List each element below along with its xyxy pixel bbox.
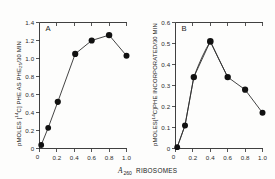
panel-b-letter: B bbox=[182, 24, 187, 33]
panel-b-xtick-4: 0.8 bbox=[241, 154, 250, 161]
panel-b-data-points bbox=[174, 38, 265, 150]
panel-a-ytick-2: 0.4 bbox=[25, 109, 34, 116]
panel-b: 0 0.1 0.2 0.3 0.4 0.5 0.6 1.4 bbox=[151, 19, 268, 161]
panel-b-y-axis-title: pMOLES[14C]PHE INCORPORATED/30 MIN bbox=[151, 23, 158, 146]
panel-b-xtick-2: 0.4 bbox=[206, 154, 215, 161]
panel-b-y-ticks bbox=[172, 23, 175, 149]
data-point bbox=[89, 37, 95, 43]
panel-a-top-ticks bbox=[57, 23, 127, 26]
panel-a: 0 0.2 0.4 0.6 0.8 1.0 1.2 1.4 bbox=[14, 19, 131, 161]
data-point bbox=[124, 53, 130, 59]
panel-b-ytick-0: 0 bbox=[167, 145, 171, 152]
panel-b-x-ticks bbox=[176, 149, 263, 153]
panel-a-xtick-4: 0.8 bbox=[105, 154, 114, 161]
panel-b-data-curve-path bbox=[177, 41, 262, 147]
panel-a-ytick-0: 0 bbox=[31, 145, 35, 152]
panel-a-data-curve bbox=[41, 35, 126, 145]
xaxis-title-word: RIBOSOMES bbox=[136, 167, 177, 174]
panel-b-top-ticks bbox=[193, 23, 263, 26]
data-point bbox=[45, 125, 51, 131]
panel-b-ytick-4: 0.4 bbox=[161, 61, 170, 68]
panel-a-xtick-1: 0.2 bbox=[52, 154, 61, 161]
svg-text:pMOLES [14C] PHE AS PHE25/30 M: pMOLES [14C] PHE AS PHE25/30 MIN bbox=[14, 41, 23, 146]
panel-b-xtick-0: 0 bbox=[172, 153, 176, 160]
figure-canvas: 0 0.2 0.4 0.6 0.8 1.0 1.2 1.4 bbox=[0, 0, 275, 179]
data-point bbox=[55, 99, 61, 105]
data-point bbox=[242, 87, 248, 93]
xaxis-title-subscript: 260 bbox=[124, 170, 133, 176]
panel-a-ytick-7: 1.4 bbox=[25, 19, 34, 26]
panel-a-xtick-3: 0.6 bbox=[87, 154, 96, 161]
panel-a-ytick-4: 0.8 bbox=[25, 73, 34, 80]
xaxis-title-symbol: A bbox=[117, 166, 123, 175]
data-point bbox=[225, 74, 231, 80]
panel-a-ytick-6: 1.2 bbox=[25, 37, 34, 44]
panel-b-ylabel-prefix: pMOLES[ bbox=[152, 119, 158, 146]
panel-a-data-points bbox=[38, 32, 129, 148]
data-point bbox=[260, 110, 266, 116]
panel-a-ylabel-prefix: pMOLES [ bbox=[16, 117, 22, 146]
panel-b-ylabel-suffix: /30 MIN bbox=[152, 23, 158, 45]
data-point bbox=[174, 144, 180, 150]
panel-a-xtick-5: 1.0 bbox=[122, 154, 131, 161]
panel-b-xtick-3: 0.6 bbox=[223, 154, 232, 161]
panel-a-x-ticks bbox=[40, 149, 127, 153]
panel-a-ytick-3: 0.6 bbox=[25, 91, 34, 98]
panel-a-xtick-0: 0 bbox=[36, 153, 40, 160]
svg-text:pMOLES[14C]PHE INCORPORATED/30: pMOLES[14C]PHE INCORPORATED/30 MIN bbox=[151, 23, 158, 146]
panel-b-ytick-6: 0.6 bbox=[161, 19, 170, 26]
data-point bbox=[207, 38, 214, 45]
panel-a-ylabel-isotope: C] PHE AS PHE bbox=[16, 68, 22, 113]
panel-a-ytick-1: 0.2 bbox=[25, 127, 34, 134]
data-point bbox=[38, 142, 44, 148]
panel-b-xtick-5: 1.0 bbox=[258, 154, 267, 161]
panel-b-ytick-3: 0.3 bbox=[161, 82, 170, 89]
panel-a-ytick-5: 1.0 bbox=[25, 55, 34, 62]
data-point bbox=[182, 122, 188, 128]
panel-a-xtick-2: 0.4 bbox=[70, 154, 79, 161]
panel-b-ytick-2: 0.2 bbox=[161, 103, 170, 110]
panel-a-ylabel-suffix: /30 MIN bbox=[16, 41, 22, 63]
panel-b-ytick-1: 0.1 bbox=[161, 124, 170, 131]
panel-a-y-ticks bbox=[36, 23, 39, 149]
figure-root: 0 0.2 0.4 0.6 0.8 1.0 1.2 1.4 bbox=[0, 0, 275, 179]
data-point bbox=[72, 51, 78, 57]
data-point bbox=[191, 74, 197, 80]
shared-x-axis-title: A 260 RIBOSOMES bbox=[117, 166, 177, 176]
panel-b-ylabel-isotope: C]PHE INCORPORATED bbox=[152, 45, 158, 114]
panel-b-ytick-5: 0.5 bbox=[161, 40, 170, 47]
panel-a-y-axis-title: pMOLES [14C] PHE AS PHE25/30 MIN bbox=[14, 41, 23, 146]
panel-a-letter: A bbox=[46, 24, 52, 33]
data-point bbox=[106, 32, 112, 38]
panel-b-xtick-1: 0.2 bbox=[188, 154, 197, 161]
